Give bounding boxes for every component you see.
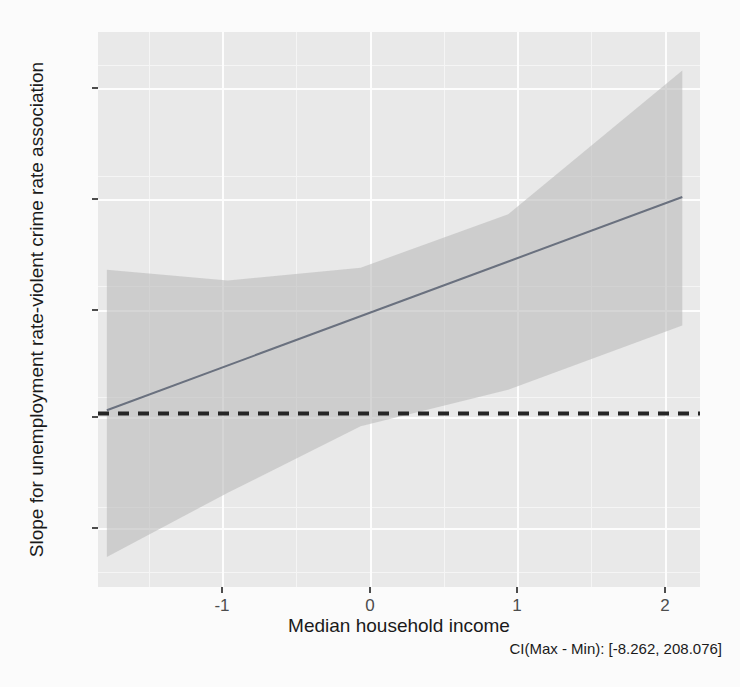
y-tick-mark-150 [92, 87, 98, 89]
ci-range-caption: CI(Max - Min): [-8.262, 208.076] [509, 640, 722, 657]
x-tick-label-1: 1 [512, 596, 521, 616]
x-tick-mark-neg1 [221, 587, 223, 593]
confidence-ribbon [107, 71, 682, 557]
y-tick-mark-neg50 [92, 527, 98, 529]
x-tick-mark-1 [516, 587, 518, 593]
chart-data-layer [98, 32, 700, 587]
y-axis-title: Slope for unemployment rate-violent crim… [22, 32, 52, 587]
x-tick-mark-0 [369, 587, 371, 593]
y-tick-mark-50 [92, 309, 98, 311]
x-tick-label-2: 2 [660, 596, 669, 616]
x-axis-title: Median household income [98, 615, 700, 637]
x-tick-mark-2 [664, 587, 666, 593]
y-tick-mark-0 [92, 416, 98, 418]
plot-panel [98, 32, 700, 587]
x-tick-label-neg1: -1 [214, 596, 229, 616]
y-tick-mark-100 [92, 198, 98, 200]
chart-figure: 150 100 50 0 -50 -1 0 1 2 Median househo… [0, 0, 740, 687]
x-tick-label-0: 0 [365, 596, 374, 616]
